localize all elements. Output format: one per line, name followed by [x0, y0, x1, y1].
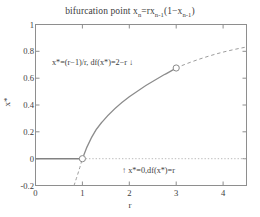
- upper-branch-annotation: x*=(r−1)/r, df(x*)=2−r ↓: [52, 58, 133, 67]
- ytick-label-0p8: 0.8: [23, 46, 34, 56]
- plot-canvas: [0, 0, 260, 217]
- ytick-label-m0p2: -0.2: [20, 181, 34, 191]
- bifurcation-marker-r1: [79, 156, 85, 162]
- title-prefix: bifurcation point x: [65, 6, 138, 16]
- xtick-label-4: 4: [221, 188, 225, 198]
- ytick-label-0: 0: [30, 154, 34, 164]
- ytick-label-0p6: 0.6: [23, 73, 34, 83]
- xtick-label-2: 2: [127, 188, 131, 198]
- title-mid-2: (1−x: [164, 6, 182, 16]
- title-suffix: ): [191, 6, 194, 16]
- zero-branch-annotation: ↑ x*=0,df(x*)=r: [122, 166, 175, 175]
- ytick-label-0p4: 0.4: [23, 100, 34, 110]
- title-sub-2: n-1: [155, 11, 164, 18]
- ytick-label-1: 1: [30, 20, 34, 30]
- bifurcation-diagram-figure: bifurcation point xn=rxn-1(1−xn-1) 1 0.8…: [0, 0, 260, 217]
- xtick-label-3: 3: [174, 188, 178, 198]
- plot-frame: [36, 25, 247, 186]
- x-axis-label: r: [0, 200, 260, 210]
- bifurcation-marker-r3: [173, 65, 179, 71]
- xtick-label-1: 1: [80, 188, 84, 198]
- chart-title: bifurcation point xn=rxn-1(1−xn-1): [0, 6, 260, 18]
- xtick-label-0: 0: [33, 188, 37, 198]
- ytick-label-0p2: 0.2: [23, 127, 34, 137]
- y-axis-label: x*: [2, 91, 12, 113]
- title-mid-1: =rx: [141, 6, 155, 16]
